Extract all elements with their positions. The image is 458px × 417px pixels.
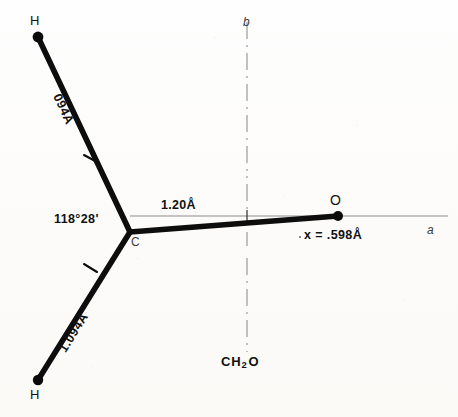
bond-tick-lower xyxy=(84,264,97,272)
molecular-diagram-figure: H H C O 094Å 1.094Å 1.20Å 118°28' x = .5… xyxy=(0,0,458,417)
atom-label-o: O xyxy=(330,193,341,207)
b-axis-label: b xyxy=(243,16,250,28)
x-offset-annotation: x = .598Å xyxy=(304,229,362,242)
atom-label-h-bottom: H xyxy=(30,388,40,401)
caption-suffix: O xyxy=(249,354,260,369)
atom-label-h-top: H xyxy=(30,14,40,27)
atom-label-c: C xyxy=(131,236,140,248)
bond-c-h-lower xyxy=(38,232,130,380)
caption-subscript: 2 xyxy=(241,359,247,370)
a-axis-label: a xyxy=(427,224,434,236)
bond-length-c-o: 1.20Å xyxy=(161,199,196,212)
bond-c-h-upper xyxy=(38,37,130,232)
ink-speck xyxy=(299,236,301,238)
caption-prefix: CH xyxy=(221,354,241,369)
atom-dot-o xyxy=(333,211,343,221)
atom-dot-h-top xyxy=(33,32,44,43)
atom-dot-h-bottom xyxy=(33,375,43,385)
figure-caption: CH2 O xyxy=(221,355,260,368)
bond-angle-label: 118°28' xyxy=(54,213,99,226)
